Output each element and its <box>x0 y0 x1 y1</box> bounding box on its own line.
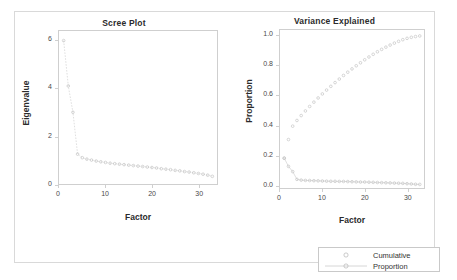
x-tick-mark <box>105 185 106 188</box>
x-tick-label: 10 <box>90 190 120 197</box>
x-tick-mark <box>58 185 59 188</box>
x-tick-label: 0 <box>43 190 73 197</box>
variance-explained-plot-area <box>279 29 425 189</box>
y-tick-label: 4 <box>18 83 52 90</box>
chart-legend: Cumulative Proportion <box>318 247 440 272</box>
y-tick-mark <box>276 186 279 187</box>
y-tick-mark <box>276 126 279 127</box>
x-tick-mark <box>199 185 200 188</box>
y-tick-label: 0.8 <box>239 60 273 67</box>
x-tick-label: 20 <box>350 194 380 201</box>
y-tick-mark <box>276 156 279 157</box>
legend-label-cumulative: Cumulative <box>373 251 411 260</box>
y-tick-mark <box>55 40 58 41</box>
variance-explained-title: Variance Explained <box>233 16 436 26</box>
x-tick-label: 30 <box>393 194 423 201</box>
y-tick-mark <box>276 65 279 66</box>
y-tick-mark <box>55 137 58 138</box>
x-tick-label: 20 <box>137 190 167 197</box>
x-tick-mark <box>365 189 366 192</box>
x-tick-label: 10 <box>307 194 337 201</box>
y-tick-mark <box>276 35 279 36</box>
legend-marker-line-circle-icon <box>319 260 373 272</box>
y-tick-label: 2 <box>18 132 52 139</box>
y-tick-label: 6 <box>18 35 52 42</box>
y-tick-label: 0.0 <box>239 181 273 188</box>
scree-plot-title: Scree Plot <box>15 18 233 28</box>
x-tick-mark <box>408 189 409 192</box>
scree-plot-series-canvas <box>59 31 217 184</box>
legend-label-proportion: Proportion <box>373 262 408 271</box>
scree-plot-x-axis-label: Factor <box>58 212 218 222</box>
x-tick-mark <box>322 189 323 192</box>
figure-outer-frame: Scree Plot Eigenvalue Factor 0246 010203… <box>14 11 435 263</box>
x-tick-mark <box>279 189 280 192</box>
variance-explained-series-canvas <box>280 30 424 188</box>
y-tick-label: 1.0 <box>239 30 273 37</box>
variance-explained-panel: Variance Explained Proportion Factor 0.0… <box>233 12 436 262</box>
scree-plot-area <box>58 30 218 185</box>
y-tick-mark <box>276 95 279 96</box>
variance-explained-x-axis-label: Factor <box>279 215 425 225</box>
scree-plot-panel: Scree Plot Eigenvalue Factor 0246 010203… <box>15 12 233 262</box>
y-tick-label: 0.4 <box>239 121 273 128</box>
x-tick-label: 0 <box>264 194 294 201</box>
y-tick-label: 0 <box>18 180 52 187</box>
x-tick-label: 30 <box>184 190 214 197</box>
y-tick-label: 0.2 <box>239 151 273 158</box>
legend-item-proportion: Proportion <box>319 260 439 272</box>
x-tick-mark <box>152 185 153 188</box>
y-tick-label: 0.6 <box>239 90 273 97</box>
y-tick-mark <box>55 88 58 89</box>
scree-plot-y-axis-label: Eigenvalue <box>21 73 31 133</box>
